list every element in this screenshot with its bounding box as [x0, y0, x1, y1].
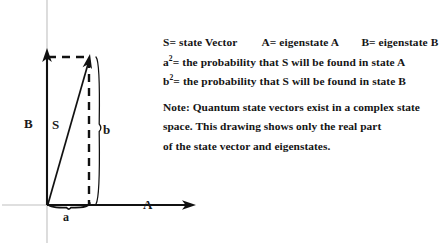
- legend-line-3: b2= the probability that S will be found…: [163, 75, 439, 87]
- annotation-text-block: S= state Vector A= eigenstate A B= eigen…: [163, 36, 439, 156]
- vertical-component-label: b: [103, 123, 110, 136]
- legend-eigenstate-a: A= eigenstate A: [262, 36, 339, 48]
- legend-state-vector: S= state Vector: [163, 36, 237, 48]
- legend-definitions: S= state Vector A= eigenstate A B= eigen…: [163, 36, 439, 87]
- state-vector-label: S: [52, 118, 59, 131]
- horizontal-component-label: a: [63, 211, 69, 223]
- legend-line-2: a2= the probability that S will be found…: [163, 56, 439, 68]
- x-axis-label: A: [143, 198, 152, 211]
- quantum-state-vector-figure: B S b a A S= state Vector A= eigenstate …: [0, 0, 444, 249]
- curly-brace-vertical-icon: [96, 57, 101, 204]
- note-line-3: of the state vector and eigenstates.: [163, 137, 439, 157]
- note-paragraph: Note: Quantum state vectors exist in a c…: [163, 98, 439, 157]
- legend-eigenstate-b: B= eigenstate B: [361, 36, 438, 48]
- probability-a-text: = the probability that S will be found i…: [173, 56, 406, 68]
- note-line-1: Note: Quantum state vectors exist in a c…: [163, 98, 439, 118]
- probability-b-text: = the probability that S will be found i…: [173, 75, 406, 87]
- legend-line-1: S= state Vector A= eigenstate A B= eigen…: [163, 36, 439, 48]
- state-vector-line: [48, 64, 88, 204]
- note-line-2: space. This drawing shows only the real …: [163, 117, 439, 137]
- y-axis-label: B: [24, 117, 33, 130]
